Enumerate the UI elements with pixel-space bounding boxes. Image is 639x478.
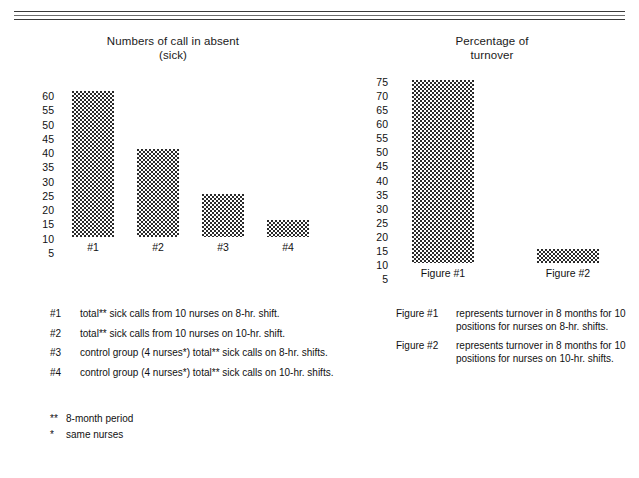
plot-area-turnover: 75706560555045403530252015105 Figure #1F… — [352, 74, 632, 296]
y-axis-tick: 30 — [376, 204, 388, 214]
bar — [537, 249, 599, 263]
y-axis-tick: 40 — [42, 148, 54, 158]
y-axis-tick: 30 — [42, 177, 54, 187]
y-axis-tick: 5 — [382, 274, 388, 284]
bar-group-turnover: Figure #1Figure #2 — [392, 74, 632, 296]
y-axis-tick: 55 — [376, 133, 388, 143]
chart-panel-turnover: Percentage of turnover 75706560555045403… — [352, 34, 632, 296]
y-axis-tick: 50 — [376, 147, 388, 157]
legend-row: Figure #2represents turnover in 8 months… — [396, 340, 634, 365]
y-axis-tick: 10 — [42, 234, 54, 244]
page-footer-artifact — [44, 470, 464, 477]
y-axis-tick: 35 — [42, 162, 54, 172]
y-axis-tick: 70 — [376, 91, 388, 101]
footnote-marker: * — [50, 428, 66, 442]
footnote-row: **8-month period — [50, 412, 310, 426]
bar — [267, 220, 309, 237]
footnote-text: same nurses — [66, 428, 310, 442]
y-axis-tick: 5 — [48, 248, 54, 258]
chart-title-turnover-line-2: turnover — [352, 48, 632, 62]
y-axis-tick: 45 — [42, 134, 54, 144]
y-axis-tick: 25 — [42, 191, 54, 201]
legend-sick-calls: #1total** sick calls from 10 nurses on 8… — [50, 308, 340, 386]
y-axis-tick: 45 — [376, 161, 388, 171]
y-axis-turnover: 75706560555045403530252015105 — [352, 74, 388, 296]
y-axis-tick: 25 — [376, 218, 388, 228]
chart-panel-sick-calls: Numbers of call in absent (sick) 6055504… — [18, 34, 328, 276]
y-axis-tick: 40 — [376, 176, 388, 186]
footnote-group: **8-month period*same nurses — [50, 412, 310, 443]
y-axis-tick: 15 — [42, 219, 54, 229]
legend-turnover: Figure #1represents turnover in 8 months… — [396, 308, 634, 372]
chart-title-turnover: Percentage of turnover — [352, 34, 632, 62]
bar — [202, 194, 244, 237]
y-axis-tick: 55 — [42, 105, 54, 115]
legend-description: total** sick calls from 10 nurses on 10-… — [80, 328, 340, 341]
legend-description: represents turnover in 8 months for 10 p… — [456, 308, 634, 333]
y-axis-tick: 65 — [376, 105, 388, 115]
bar-slot: #2 — [137, 149, 179, 253]
bar-slot: #3 — [202, 194, 244, 253]
legend-description: control group (4 nurses*) total** sick c… — [80, 347, 340, 360]
bar-slot: Figure #2 — [537, 249, 599, 279]
legend-row: #3control group (4 nurses*) total** sick… — [50, 347, 340, 360]
chart-title-line-2: (sick) — [18, 48, 328, 62]
y-axis-tick: 75 — [376, 77, 388, 87]
legend-key: #2 — [50, 328, 80, 341]
chart-title-turnover-line-1: Percentage of — [352, 34, 632, 48]
chart-title-line-1: Numbers of call in absent — [18, 34, 328, 48]
top-rule-2 — [14, 15, 625, 16]
bar-category-label: Figure #1 — [412, 267, 474, 279]
footnote-row: *same nurses — [50, 428, 310, 442]
y-axis-tick: 15 — [376, 246, 388, 256]
legend-description: total** sick calls from 10 nurses on 8-h… — [80, 308, 340, 321]
y-axis-tick: 20 — [376, 232, 388, 242]
bar — [72, 91, 114, 237]
legend-description: control group (4 nurses*) total** sick c… — [80, 367, 340, 380]
y-axis-tick: 60 — [376, 119, 388, 129]
bar-category-label: #1 — [72, 241, 114, 253]
y-axis-tick: 50 — [42, 120, 54, 130]
legend-row: #4control group (4 nurses*) total** sick… — [50, 367, 340, 380]
legend-key: #4 — [50, 367, 80, 380]
legend-row: #1total** sick calls from 10 nurses on 8… — [50, 308, 340, 321]
legend-key: Figure #2 — [396, 340, 456, 353]
bar-slot: #1 — [72, 91, 114, 253]
top-rule-group — [14, 11, 625, 23]
chart-title-sick-calls: Numbers of call in absent (sick) — [18, 34, 328, 62]
bar-slot: Figure #1 — [412, 80, 474, 279]
y-axis-tick: 35 — [376, 190, 388, 200]
bar — [137, 149, 179, 237]
plot-area-sick-calls: 60555045403530252015105 #1#2#3#4 — [18, 86, 328, 276]
bar-slot: #4 — [267, 220, 309, 253]
top-rule-1 — [14, 11, 625, 12]
y-axis-tick: 10 — [376, 260, 388, 270]
document-page: Numbers of call in absent (sick) 6055504… — [0, 0, 639, 478]
bar-group-sick-calls: #1#2#3#4 — [58, 86, 328, 276]
bar-category-label: Figure #2 — [537, 267, 599, 279]
bar-category-label: #4 — [267, 241, 309, 253]
bar-category-label: #3 — [202, 241, 244, 253]
bar — [412, 80, 474, 263]
top-rule-3 — [14, 19, 625, 20]
legend-key: #1 — [50, 308, 80, 321]
y-axis-sick-calls: 60555045403530252015105 — [18, 86, 54, 276]
footnote-marker: ** — [50, 412, 66, 426]
y-axis-tick: 20 — [42, 205, 54, 215]
legend-key: #3 — [50, 347, 80, 360]
footnote-text: 8-month period — [66, 412, 310, 426]
legend-row: #2total** sick calls from 10 nurses on 1… — [50, 328, 340, 341]
legend-row: Figure #1represents turnover in 8 months… — [396, 308, 634, 333]
bar-category-label: #2 — [137, 241, 179, 253]
legend-description: represents turnover in 8 months for 10 p… — [456, 340, 634, 365]
y-axis-tick: 60 — [42, 91, 54, 101]
legend-key: Figure #1 — [396, 308, 456, 321]
